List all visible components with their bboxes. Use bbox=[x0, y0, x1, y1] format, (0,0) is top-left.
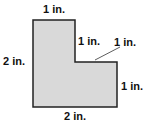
l-shape bbox=[33, 20, 117, 107]
label-inner-horizontal: 1 in. bbox=[114, 37, 136, 48]
leader-line bbox=[95, 47, 120, 60]
label-bottom: 2 in. bbox=[64, 111, 86, 122]
diagram-canvas: 1 in. 2 in. 1 in. 1 in. 1 in. 2 in. bbox=[0, 0, 150, 126]
label-top: 1 in. bbox=[43, 4, 65, 15]
label-left: 2 in. bbox=[3, 56, 25, 67]
label-inner-vertical: 1 in. bbox=[78, 36, 100, 47]
label-right: 1 in. bbox=[121, 81, 143, 92]
